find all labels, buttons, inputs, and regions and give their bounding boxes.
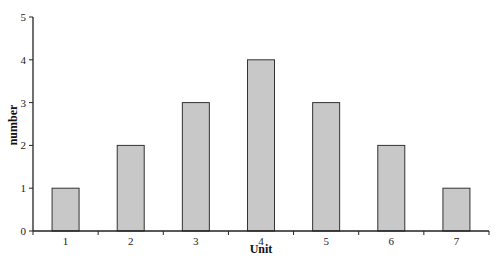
y-tick-label: 1 bbox=[21, 182, 27, 194]
bar-unit-7 bbox=[443, 188, 470, 231]
y-tick-label: 4 bbox=[21, 54, 27, 66]
y-axis-title: number bbox=[6, 104, 20, 145]
y-tick-label: 3 bbox=[21, 97, 27, 109]
bar-chart: 012345 1234567 Unit number bbox=[0, 0, 500, 266]
bars-group bbox=[52, 60, 470, 231]
bar-unit-6 bbox=[378, 145, 405, 231]
x-tick-label: 1 bbox=[63, 235, 69, 247]
y-tick-label: 2 bbox=[21, 139, 27, 151]
x-tick-label: 7 bbox=[454, 235, 460, 247]
bar-unit-1 bbox=[52, 188, 79, 231]
x-tick-label: 3 bbox=[193, 235, 199, 247]
x-tick-label: 2 bbox=[128, 235, 134, 247]
bar-unit-5 bbox=[313, 103, 340, 231]
y-axis-ticks: 012345 bbox=[21, 11, 34, 237]
x-tick-label: 5 bbox=[323, 235, 329, 247]
y-tick-label: 5 bbox=[21, 11, 27, 23]
x-axis-title: Unit bbox=[250, 242, 273, 256]
x-tick-label: 6 bbox=[389, 235, 395, 247]
bar-unit-2 bbox=[117, 145, 144, 231]
y-tick-label: 0 bbox=[21, 225, 27, 237]
bar-unit-3 bbox=[182, 103, 209, 231]
bar-unit-4 bbox=[248, 60, 275, 231]
